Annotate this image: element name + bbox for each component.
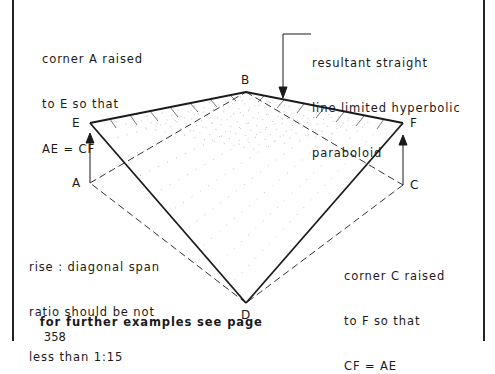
text-line: to F so that bbox=[344, 314, 445, 329]
text-line: corner C raised bbox=[344, 269, 445, 284]
text-line: CF = AE bbox=[344, 359, 445, 374]
annotation-corner-c: corner C raised to F so that CF = AE bbox=[344, 239, 445, 374]
text-line: line limited hyperbolic bbox=[312, 101, 461, 116]
annotation-resultant: resultant straight line limited hyperbol… bbox=[312, 26, 461, 176]
annotation-corner-a: corner A raised to E so that AE = CF bbox=[42, 22, 143, 172]
point-label-f: F bbox=[410, 116, 417, 130]
text-line: rise : diagonal span bbox=[29, 260, 160, 275]
point-label-d: D bbox=[241, 308, 250, 322]
text-line: corner A raised bbox=[42, 52, 143, 67]
point-label-b: B bbox=[241, 73, 249, 87]
page-number: 358 bbox=[44, 330, 66, 344]
text-line: resultant straight bbox=[312, 56, 461, 71]
point-label-a: A bbox=[72, 176, 80, 190]
footer-text: for further examples see page bbox=[40, 315, 263, 329]
text-line: AE = CF bbox=[42, 142, 143, 157]
point-label-c: C bbox=[410, 178, 418, 192]
text-line: paraboloid bbox=[312, 146, 461, 161]
leader-arrow bbox=[279, 34, 311, 98]
footer-note: for further examples see page 358 bbox=[30, 300, 263, 345]
text-line: less than 1:15 bbox=[29, 350, 160, 365]
point-label-e: E bbox=[72, 116, 80, 130]
text-line: to E so that bbox=[42, 97, 143, 112]
